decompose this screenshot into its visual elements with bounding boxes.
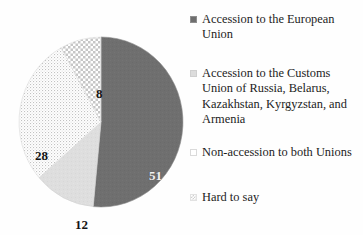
legend-item-accession-customs-union[interactable]: Accession to the Customs Union of Russia… [190,66,362,128]
legend-item-non-accession[interactable]: Non-accession to both Unions [190,145,362,160]
pie-chart-plot: 51 12 28 8 [18,36,184,208]
pie-slice-label-8: 8 [96,87,103,100]
pie-slice-label-28: 28 [35,149,48,162]
legend-item-accession-european-union[interactable]: Accession to the European Union [190,12,362,43]
legend-swatch-icon-customs-union [190,70,197,77]
legend-label-non-accession: Non-accession to both Unions [202,145,352,160]
legend-item-hard-to-say[interactable]: Hard to say [190,190,362,205]
pie-slice-51[interactable] [93,37,183,207]
pie-slice-label-12: 12 [75,218,88,231]
legend-swatch-icon-hard-to-say [190,194,197,201]
legend-label-hard-to-say: Hard to say [202,190,259,205]
legend-label-customs-union: Accession to the Customs Union of Russia… [202,66,360,128]
legend-label-european-union: Accession to the European Union [202,12,360,43]
legend-swatch-icon-european-union [190,16,197,23]
pie-slice-label-51: 51 [149,169,162,182]
pie-chart-figure: 51 12 28 8 Accession to the European Uni… [0,0,363,235]
chart-legend: Accession to the European Union Accessio… [190,10,362,225]
legend-swatch-icon-non-accession [190,149,197,156]
